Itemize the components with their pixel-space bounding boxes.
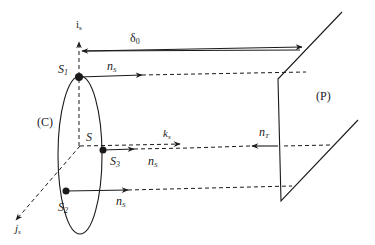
origin-label: S — [86, 130, 92, 144]
ns-label-2: nS — [116, 194, 126, 209]
s2-label: S2 — [58, 200, 68, 215]
axes-origin: S ks js — [13, 127, 180, 236]
axis-j-label: js — [13, 222, 21, 236]
point-s2 — [63, 188, 70, 195]
s3-label: S3 — [110, 154, 120, 169]
ray-s3: S3 nS — [100, 147, 191, 170]
ray-s1: S1 nS — [58, 59, 306, 81]
plane-p: (P) — [278, 12, 358, 201]
ray-s2: S2 nS — [58, 186, 292, 215]
nt-label: nT — [259, 125, 270, 140]
s1-label: S1 — [58, 62, 68, 77]
ks-label: ks — [163, 127, 171, 141]
axis-i: is — [76, 18, 82, 146]
plane-label: (P) — [316, 89, 331, 103]
ns-label-1: nS — [107, 59, 117, 74]
point-s1 — [75, 73, 83, 81]
delta-label: δ0 — [130, 31, 140, 46]
point-s3 — [100, 147, 107, 154]
diagram: is δ0 (C) S ks js S1 nS S3 nS S2 nS — [0, 0, 375, 245]
curve-c-label: (C) — [37, 115, 53, 129]
ray-nt: nT — [188, 125, 330, 148]
ns-label-3: nS — [148, 154, 158, 169]
axis-i-label: is — [76, 18, 82, 32]
delta-arrow: δ0 — [82, 31, 302, 51]
